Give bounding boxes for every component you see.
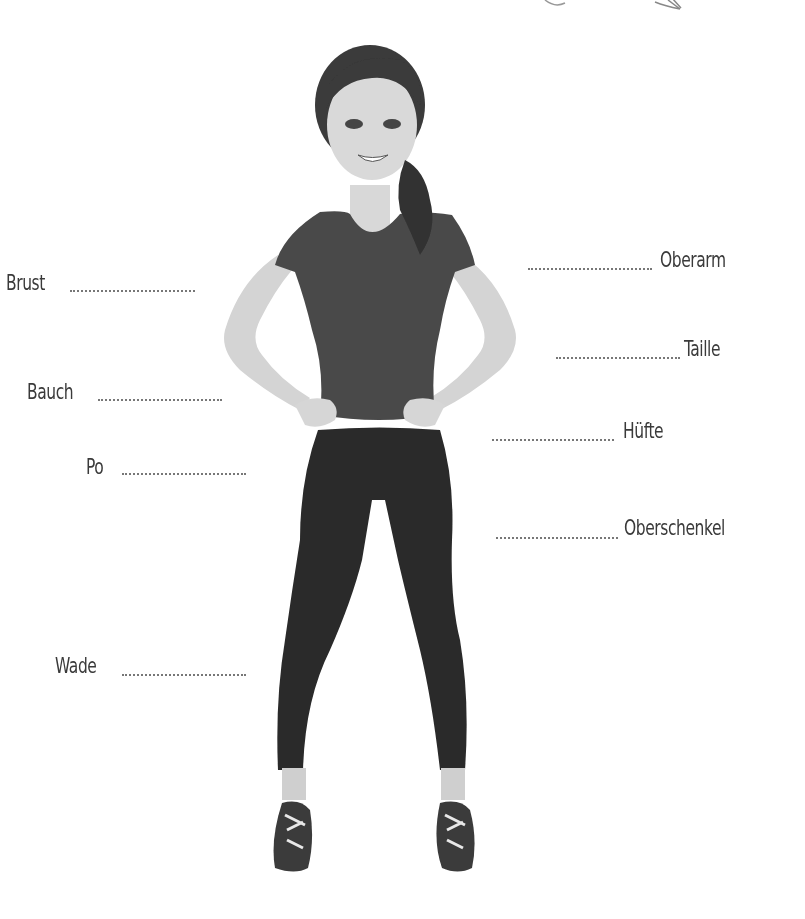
measurement-line-taille[interactable] xyxy=(556,357,680,359)
label-oberarm: Oberarm xyxy=(660,248,726,272)
measurement-line-huefte[interactable] xyxy=(492,439,614,441)
label-brust: Brust xyxy=(6,271,45,295)
measurement-line-wade[interactable] xyxy=(122,674,246,676)
label-wade: Wade xyxy=(55,654,96,678)
right-shoe xyxy=(436,802,474,872)
label-po: Po xyxy=(86,455,103,479)
label-bauch: Bauch xyxy=(27,380,73,404)
woman-figure xyxy=(0,0,805,919)
measurement-line-oberschenkel[interactable] xyxy=(496,537,618,539)
measurement-line-oberarm[interactable] xyxy=(528,268,652,270)
left-shoe xyxy=(274,802,313,872)
label-huefte: Hüfte xyxy=(623,419,663,443)
measurement-line-po[interactable] xyxy=(122,473,246,475)
label-oberschenkel: Oberschenkel xyxy=(624,516,725,540)
leggings xyxy=(277,428,466,771)
left-arm xyxy=(224,255,310,410)
measurement-line-bauch[interactable] xyxy=(98,399,222,401)
label-taille: Taille xyxy=(684,337,720,361)
measurement-line-brust[interactable] xyxy=(70,290,195,292)
